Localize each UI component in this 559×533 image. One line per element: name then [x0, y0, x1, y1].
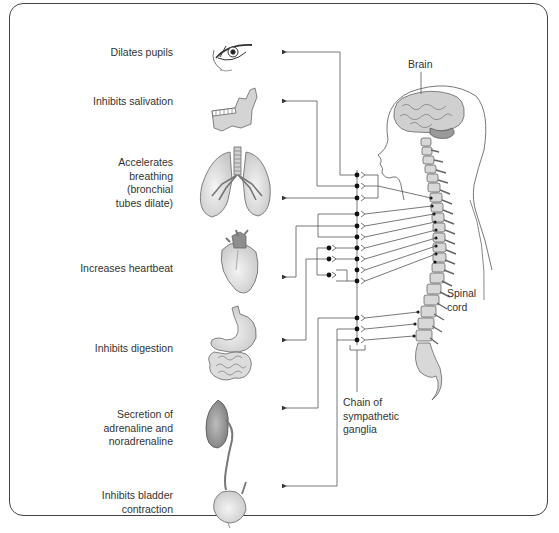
label-line: Secretion of	[40, 408, 173, 422]
ganglia-label: Chain of sympathetic ganglia	[343, 396, 399, 437]
label-line: Inhibits bladder	[40, 489, 173, 503]
label-line: ganglia	[343, 423, 399, 437]
effect-label-breathing: Accelerates breathing (bronchial tubes d…	[40, 156, 173, 210]
effect-label-digestion: Inhibits digestion	[40, 342, 173, 356]
label-line: noradrenaline	[40, 435, 173, 449]
spinal-cord-label: Spinal cord	[447, 287, 476, 314]
label-line: breathing	[40, 170, 173, 184]
effect-label-bladder: Inhibits bladder contraction	[40, 489, 173, 516]
adrenal-kidney-icon	[206, 400, 232, 490]
label-line: Chain of	[343, 396, 399, 410]
label-line: (bronchial	[40, 183, 173, 197]
label-line: cord	[447, 301, 476, 315]
eye-icon	[213, 45, 252, 71]
effect-label-pupils: Dilates pupils	[40, 46, 173, 60]
brain-icon	[394, 91, 464, 138]
bladder-icon	[214, 482, 246, 528]
stomach-intestines-icon	[209, 306, 257, 380]
label-line: tubes dilate)	[40, 197, 173, 211]
spine-icon	[415, 138, 456, 400]
label-line: Inhibits digestion	[40, 342, 173, 356]
label-line: Increases heartbeat	[40, 262, 173, 276]
brain-label: Brain	[408, 58, 433, 72]
heart-icon	[221, 230, 258, 293]
label-line: Dilates pupils	[40, 46, 173, 60]
label-line: sympathetic	[343, 410, 399, 424]
effect-label-heartbeat: Increases heartbeat	[40, 262, 173, 276]
effect-label-salivation: Inhibits salivation	[40, 95, 173, 109]
label-line: adrenaline and	[40, 422, 173, 436]
effect-label-adrenaline: Secretion of adrenaline and noradrenalin…	[40, 408, 173, 449]
lungs-icon	[200, 147, 270, 217]
jaw-icon	[212, 88, 257, 131]
label-line: Brain	[408, 58, 433, 72]
label-line: Accelerates	[40, 156, 173, 170]
label-line: Inhibits salivation	[40, 95, 173, 109]
label-line: Spinal	[447, 287, 476, 301]
label-line: contraction	[40, 503, 173, 517]
